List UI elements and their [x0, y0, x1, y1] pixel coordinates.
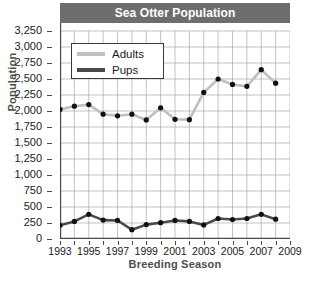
x-tick-label: 2009 [278, 245, 301, 257]
y-tick-mark [47, 111, 52, 112]
y-tick-mark [47, 191, 52, 192]
y-tick-label: 2,000 [14, 105, 42, 116]
y-tick-mark [47, 63, 52, 64]
y-tick-mark [47, 31, 52, 32]
y-tick-mark [47, 143, 52, 144]
x-axis-tick-labels: 199319951997199920012003200520072009 [0, 241, 309, 257]
y-tick-mark [47, 79, 52, 80]
legend-swatch-adults [77, 52, 105, 56]
x-tick-label: 1993 [48, 245, 71, 257]
y-tick-mark [47, 223, 52, 224]
y-tick-label: 1,000 [14, 169, 42, 180]
y-tick-label: 500 [24, 201, 42, 212]
x-tick-label: 2001 [163, 245, 186, 257]
y-axis-tick-labels: 02505007501,0001,2501,5001,7502,0002,250… [0, 23, 52, 239]
y-tick-label: 3,250 [14, 25, 42, 36]
y-tick-label: 750 [24, 185, 42, 196]
x-tick-label: 1999 [135, 245, 158, 257]
x-tick-mark [247, 241, 248, 245]
y-tick-mark [47, 47, 52, 48]
chart-title-bar: Sea Otter Population [60, 3, 290, 23]
x-tick-mark [189, 241, 190, 245]
x-tick-mark [132, 241, 133, 245]
x-tick-mark [218, 241, 219, 245]
y-tick-label: 3,000 [14, 41, 42, 52]
x-tick-mark [276, 241, 277, 245]
x-tick-label: 2003 [192, 245, 215, 257]
legend-label-adults: Adults [112, 48, 144, 60]
x-tick-label: 2007 [250, 245, 273, 257]
y-tick-label: 1,750 [14, 121, 42, 132]
x-tick-label: 1997 [106, 245, 129, 257]
y-tick-label: 2,500 [14, 73, 42, 84]
x-axis-label: Breeding Season [60, 258, 290, 270]
y-tick-mark [47, 127, 52, 128]
chart-legend: Adults Pups [71, 43, 164, 79]
y-tick-label: 2,750 [14, 57, 42, 68]
x-tick-label: 2005 [221, 245, 244, 257]
x-tick-label: 1995 [77, 245, 100, 257]
y-tick-mark [47, 175, 52, 176]
legend-item-pups: Pups [77, 62, 138, 78]
y-tick-label: 1,500 [14, 137, 42, 148]
y-tick-label: 250 [24, 217, 42, 228]
chart-title: Sea Otter Population [115, 6, 236, 20]
x-tick-mark [103, 241, 104, 245]
y-tick-mark [47, 239, 52, 240]
x-tick-mark [74, 241, 75, 245]
x-tick-mark [161, 241, 162, 245]
y-tick-label: 1,250 [14, 153, 42, 164]
y-tick-label: 2,250 [14, 89, 42, 100]
y-tick-mark [47, 159, 52, 160]
y-tick-mark [47, 207, 52, 208]
chart-figure: Sea Otter Population Population Breeding… [0, 0, 309, 282]
legend-swatch-pups [77, 68, 105, 72]
legend-item-adults: Adults [77, 46, 144, 62]
y-tick-mark [47, 95, 52, 96]
legend-label-pups: Pups [112, 64, 138, 76]
